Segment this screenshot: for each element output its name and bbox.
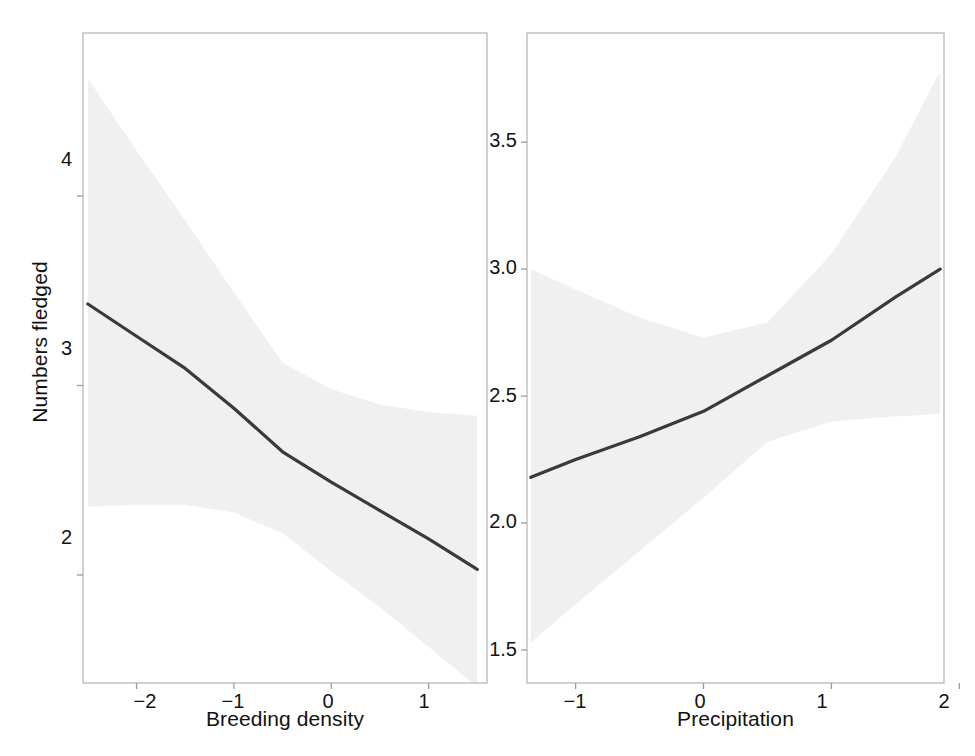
y-tick-label: 1.5	[455, 638, 517, 661]
x-tick-label: 0	[296, 690, 360, 713]
x-tick-marks	[576, 683, 960, 689]
x-tick-label: −1	[201, 690, 265, 713]
x-tick-label: −1	[543, 690, 607, 713]
x-tick-label: −2	[113, 690, 177, 713]
y-tick-label: 3.0	[455, 256, 517, 279]
confidence-band	[88, 78, 477, 686]
y-tick-marks	[521, 142, 527, 650]
x-tick-label: 2	[912, 690, 975, 713]
y-tick-label: 2	[28, 526, 72, 549]
panel-precipitation: Precipitation 3.5 3.0 2.5 2.0 1.5 −1 0 1…	[500, 0, 975, 756]
figure-canvas: Numbers fledged Breeding density 4 3 2 −…	[0, 0, 975, 756]
x-tick-marks	[137, 683, 429, 689]
x-tick-label: 1	[392, 690, 456, 713]
x-tick-label: 1	[790, 690, 854, 713]
panel-breeding-density: Numbers fledged Breeding density 4 3 2 −…	[0, 0, 500, 756]
right-plot-area	[500, 0, 975, 756]
x-tick-label: 0	[668, 690, 732, 713]
y-tick-label: 3	[28, 337, 72, 360]
y-tick-label: 2.0	[455, 510, 517, 533]
confidence-band	[531, 71, 940, 642]
left-plot-area	[0, 0, 500, 756]
y-tick-label: 4	[28, 148, 72, 171]
y-tick-marks	[77, 196, 83, 575]
y-tick-label: 2.5	[455, 384, 517, 407]
y-tick-label: 3.5	[455, 129, 517, 152]
